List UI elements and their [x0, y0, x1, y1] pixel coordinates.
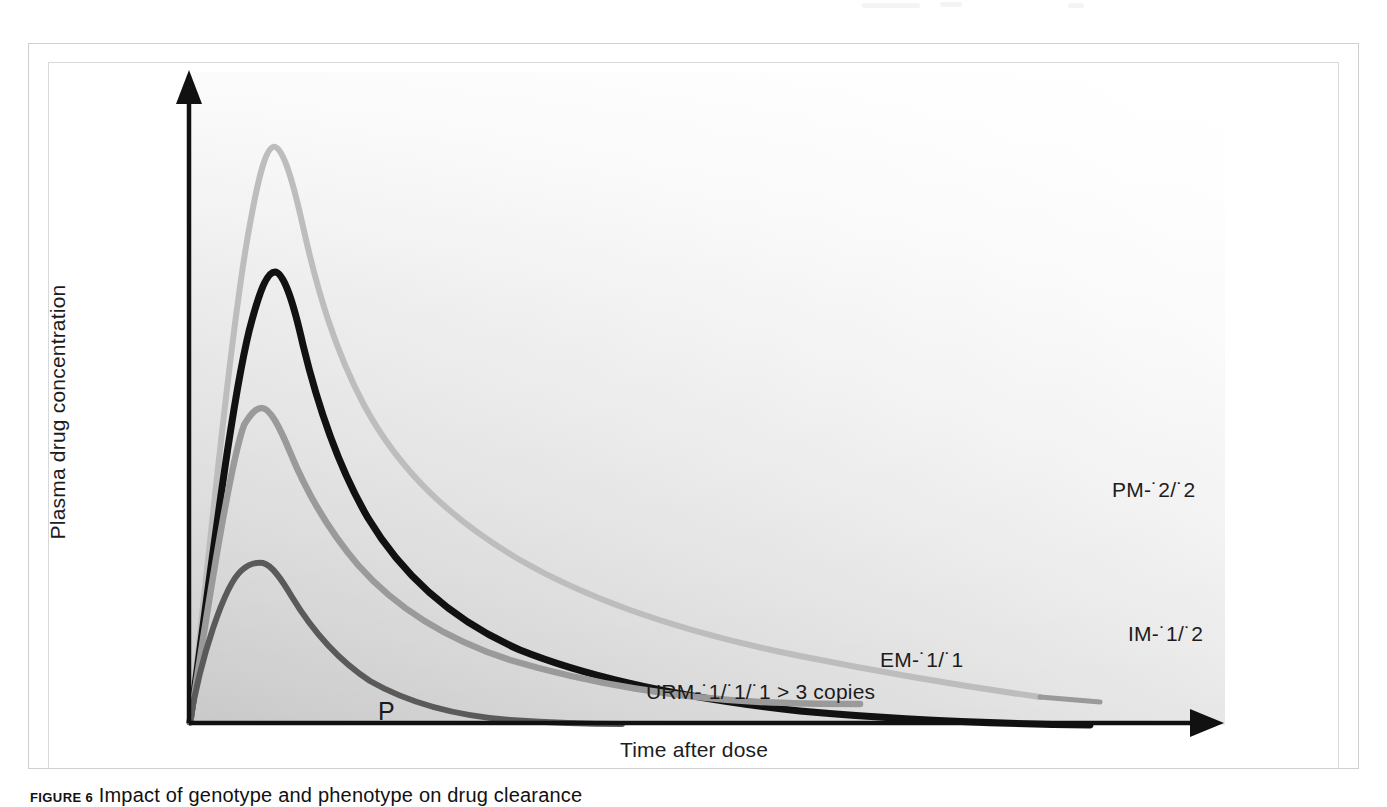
scan-artifact-mark: [862, 3, 920, 8]
p-annotation: P: [378, 697, 395, 726]
scan-artifacts: [0, 0, 1387, 14]
series-label-em: EM-˙1/˙1: [880, 648, 963, 672]
figure-caption-number: FIGURE 6: [30, 790, 93, 805]
scan-artifact-mark: [940, 2, 962, 7]
figure-frame-outer: [28, 43, 1359, 769]
y-axis-label: Plasma drug concentration: [46, 282, 70, 542]
series-label-pm: PM-˙2/˙2: [1112, 478, 1195, 502]
series-label-im: IM-˙1/˙2: [1128, 622, 1203, 646]
x-axis-label: Time after dose: [620, 738, 768, 762]
figure-frame-inner: [48, 62, 1339, 768]
figure-caption: FIGURE 6 Impact of genotype and phenotyp…: [30, 784, 1350, 807]
series-label-urm: URM-˙1/˙1/˙1 > 3 copies: [646, 680, 875, 704]
figure-caption-text: Impact of genotype and phenotype on drug…: [99, 784, 583, 806]
scan-artifact-mark: [1068, 3, 1084, 8]
